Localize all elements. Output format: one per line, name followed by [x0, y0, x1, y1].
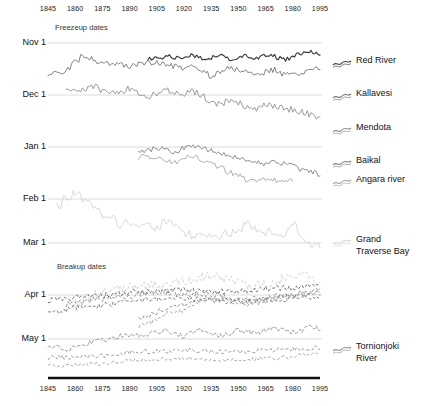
legend-swatch-icon — [332, 155, 352, 166]
x-tick-1905: 1905 — [143, 384, 171, 393]
x-tick-1890: 1890 — [116, 384, 144, 393]
legend-label: Tornionjoki River — [356, 341, 399, 364]
legend-swatch-icon — [332, 174, 352, 185]
series-curves — [48, 50, 320, 367]
breakup-series-line-tornionjoki-river — [48, 352, 320, 367]
legend-label: Baikal — [356, 155, 381, 167]
x-tick-1875: 1875 — [88, 384, 116, 393]
legend-label: Mendota — [356, 122, 391, 134]
x-tick-1995: 1995 — [306, 384, 334, 393]
series-line-baikal — [139, 145, 320, 176]
series-line-tornionjoki-river — [48, 325, 320, 351]
x-tick-1965: 1965 — [252, 384, 280, 393]
legend-label: Angara river — [356, 174, 405, 186]
breakup-series-line-grand-traverse-bay — [75, 272, 320, 304]
x-tick-1980: 1980 — [279, 384, 307, 393]
series-line-mendota — [66, 84, 320, 119]
x-tick-1935: 1935 — [197, 384, 225, 393]
legend-label: Red River — [356, 55, 396, 67]
legend-swatch-icon — [332, 88, 352, 99]
x-tick-1950: 1950 — [224, 384, 252, 393]
chart-figure: 1845186018751890190519201935195019651980… — [0, 0, 430, 406]
gridlines — [48, 43, 322, 339]
legend-swatch-icon — [332, 234, 352, 245]
breakup-series-line-baikal — [139, 288, 320, 319]
legend-label: Kallavesi — [356, 88, 392, 100]
bottom-axis-tick-labels: 1845186018751890190519201935195019651980… — [0, 384, 430, 396]
legend-swatch-icon — [332, 341, 352, 352]
x-tick-1845: 1845 — [34, 384, 62, 393]
series-line-red-river — [148, 50, 320, 61]
x-tick-1860: 1860 — [61, 384, 89, 393]
legend-label: Grand Traverse Bay — [356, 234, 409, 257]
legend-swatch-icon — [332, 55, 352, 66]
x-tick-1920: 1920 — [170, 384, 198, 393]
legend-swatch-icon — [332, 122, 352, 133]
series-line-angara-river — [139, 154, 293, 182]
